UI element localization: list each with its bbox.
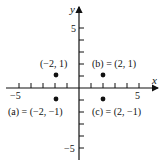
point-label-neg2-1: (−2, 1): [40, 58, 67, 70]
x-tick-label-neg5: −5: [10, 90, 21, 101]
coordinate-plane: y x −5 5 5 −5 (−2, 1) (b) = (2, 1) (a) =…: [0, 0, 166, 164]
x-tick-label-5: 5: [135, 90, 140, 101]
point-label-b: (b) = (2, 1): [92, 58, 136, 70]
point-label-c: (c) = (2, −1): [92, 106, 141, 118]
point-c: [101, 97, 106, 102]
y-tick-label-5: 5: [71, 23, 76, 34]
x-axis-label: x: [151, 74, 157, 86]
point-b: [101, 73, 106, 78]
point-neg2-1: [54, 73, 59, 78]
point-label-a: (a) = (−2, −1): [8, 106, 63, 118]
y-axis-label: y: [69, 3, 75, 15]
y-tick-label-neg5: −5: [64, 143, 75, 154]
point-a: [54, 97, 59, 102]
